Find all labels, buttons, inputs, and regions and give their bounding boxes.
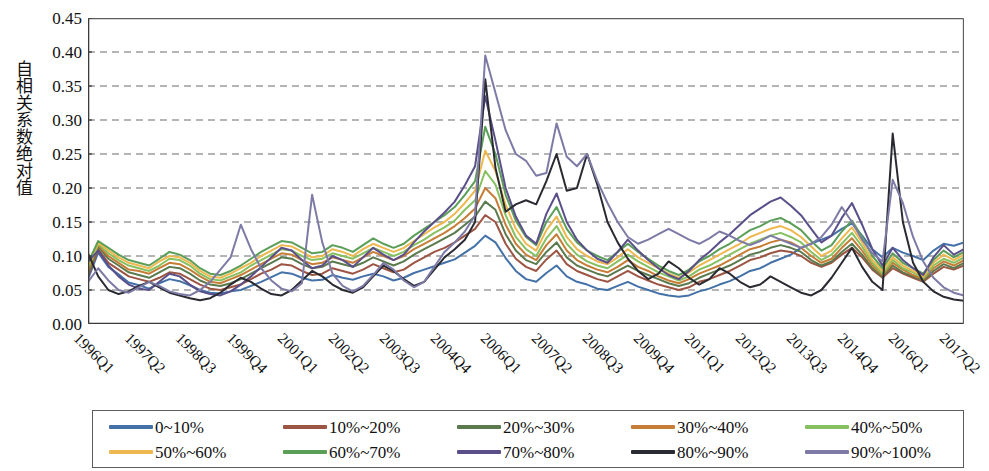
y-axis-tick-label: 0.05 xyxy=(34,282,82,299)
legend-item[interactable]: 20%~30% xyxy=(441,415,615,439)
y-axis-tick-label: 0.15 xyxy=(34,214,82,231)
legend-item[interactable]: 30%~40% xyxy=(615,415,789,439)
x-axis-tick-label: 2012Q2 xyxy=(733,330,780,377)
y-axis-tick-label: 0.00 xyxy=(34,316,82,333)
x-axis-tick-label: 1997Q2 xyxy=(122,330,169,377)
x-axis-tick-label: 2017Q2 xyxy=(936,330,983,377)
legend-color-swatch xyxy=(283,450,327,454)
legend-label: 80%~90% xyxy=(677,444,749,461)
y-axis-tick-label: 0.40 xyxy=(34,44,82,61)
series-line xyxy=(88,171,964,280)
x-axis-tick-labels: 1996Q11997Q21998Q31999Q42001Q12002Q22003… xyxy=(88,324,964,404)
legend-row: 0~10%10%~20%20%~30%30%~40%40%~50% xyxy=(93,415,963,439)
legend-label: 50%~60% xyxy=(155,444,227,461)
x-axis-tick-label: 2011Q1 xyxy=(682,330,728,376)
legend-label: 10%~20% xyxy=(329,419,401,436)
plot-area xyxy=(88,18,964,324)
legend-item[interactable]: 90%~100% xyxy=(789,440,963,464)
chart-legend: 0~10%10%~20%20%~30%30%~40%40%~50% 50%~60… xyxy=(92,410,964,468)
legend-label: 90%~100% xyxy=(851,444,931,461)
x-axis-tick-label: 2013Q3 xyxy=(784,330,831,377)
y-axis-tick-label: 0.30 xyxy=(34,112,82,129)
legend-color-swatch xyxy=(805,425,849,429)
legend-color-swatch xyxy=(631,450,675,454)
x-axis-tick-label: 1998Q3 xyxy=(173,330,220,377)
legend-row: 50%~60%60%~70%70%~80%80%~90%90%~100% xyxy=(93,440,963,464)
legend-label: 0~10% xyxy=(155,419,204,436)
legend-color-swatch xyxy=(283,425,327,429)
legend-label: 70%~80% xyxy=(503,444,575,461)
legend-item[interactable]: 0~10% xyxy=(93,415,267,439)
x-axis-tick-label: 2002Q2 xyxy=(325,330,372,377)
legend-color-swatch xyxy=(805,450,849,454)
x-axis-tick-label: 2006Q1 xyxy=(478,330,525,377)
series-lines xyxy=(88,55,964,300)
legend-label: 20%~30% xyxy=(503,419,575,436)
y-axis-tick-label: 0.10 xyxy=(34,248,82,265)
y-axis-tick-label: 0.35 xyxy=(34,78,82,95)
legend-label: 60%~70% xyxy=(329,444,401,461)
y-axis-tick-label: 0.25 xyxy=(34,146,82,163)
legend-item[interactable]: 80%~90% xyxy=(615,440,789,464)
y-axis-tick-label: 0.20 xyxy=(34,180,82,197)
legend-item[interactable]: 40%~50% xyxy=(789,415,963,439)
legend-item[interactable]: 10%~20% xyxy=(267,415,441,439)
x-axis-tick-label: 2004Q4 xyxy=(427,330,474,377)
chart-figure: 自相关系数绝对值 0.450.400.350.300.250.200.150.1… xyxy=(0,0,989,471)
series-line xyxy=(88,96,964,295)
legend-item[interactable]: 50%~60% xyxy=(93,440,267,464)
legend-label: 40%~50% xyxy=(851,419,923,436)
x-axis-tick-label: 1996Q1 xyxy=(71,330,118,377)
legend-color-swatch xyxy=(109,425,153,429)
x-axis-tick-label: 2003Q3 xyxy=(376,330,423,377)
chart-canvas xyxy=(88,18,964,324)
legend-color-swatch xyxy=(631,425,675,429)
y-axis-tick-labels: 0.450.400.350.300.250.200.150.100.050.00 xyxy=(28,0,82,340)
legend-label: 30%~40% xyxy=(677,419,749,436)
y-axis-tick-label: 0.45 xyxy=(34,10,82,27)
x-axis-tick-label: 2008Q3 xyxy=(580,330,627,377)
legend-color-swatch xyxy=(457,450,501,454)
x-axis-tick-label: 2007Q2 xyxy=(529,330,576,377)
legend-item[interactable]: 60%~70% xyxy=(267,440,441,464)
x-axis-tick-label: 2009Q4 xyxy=(631,330,678,377)
x-axis-tick-label: 2014Q4 xyxy=(835,330,882,377)
legend-item[interactable]: 70%~80% xyxy=(441,440,615,464)
legend-color-swatch xyxy=(457,425,501,429)
x-axis-tick-label: 1999Q4 xyxy=(223,330,270,377)
x-axis-tick-label: 2016Q1 xyxy=(886,330,933,377)
legend-color-swatch xyxy=(109,450,153,454)
x-axis-tick-label: 2001Q1 xyxy=(274,330,321,377)
